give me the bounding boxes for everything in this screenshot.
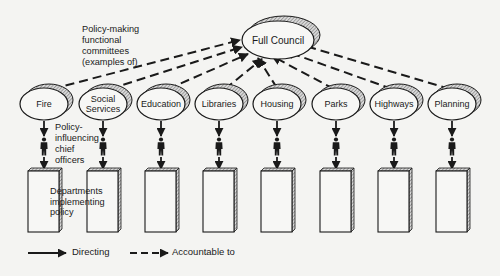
committee-node: Highways — [370, 84, 423, 120]
department-column — [320, 121, 354, 232]
committee-label: Housing — [260, 99, 293, 109]
department-column — [203, 121, 237, 232]
annotation-line: Policy-making — [82, 24, 139, 35]
committee-node: Libraries — [195, 84, 248, 120]
legend-directing-label: Directing — [72, 246, 110, 257]
legend-accountable-label: Accountable to — [172, 246, 235, 257]
department-box — [436, 168, 470, 232]
chief-officer-icon — [273, 137, 280, 155]
full-council-node: Full Council — [242, 16, 320, 59]
committee-label: Highways — [374, 99, 414, 109]
chief-officer-icon — [390, 137, 397, 155]
committee-label: Fire — [36, 99, 52, 109]
annotation-line: Departments — [50, 186, 105, 197]
department-box — [261, 168, 295, 232]
committee-label: Social — [91, 94, 116, 104]
committee-node: Parks — [312, 84, 365, 120]
committee-label: Parks — [324, 99, 348, 109]
chief-officer-icon — [448, 137, 455, 155]
committee-label: Planning — [434, 99, 469, 109]
department-column — [436, 121, 470, 232]
annotation-line: functional — [82, 35, 139, 46]
committee-label: Libraries — [202, 99, 237, 109]
department-box — [145, 168, 179, 232]
full-council-label: Full Council — [252, 35, 304, 46]
committee-node: Education — [137, 84, 190, 120]
chief-officer-icon — [332, 137, 339, 155]
chief-officer-icon — [157, 137, 164, 155]
department-column — [378, 121, 412, 232]
committee-label: Services — [86, 104, 121, 114]
departments-annotation: Departments implementing policy — [50, 186, 105, 218]
annotation-line: (examples of) — [82, 57, 139, 68]
committee-node: Fire — [20, 84, 73, 120]
department-box — [320, 168, 354, 232]
chief-officer-icon — [215, 137, 222, 155]
chief-officer-icon — [40, 137, 47, 155]
committee-label: Education — [141, 99, 181, 109]
committee-node: SocialServices — [79, 84, 132, 120]
annotation-line: committees — [82, 46, 139, 57]
chief-officer-icon — [99, 137, 106, 155]
committee-node: Planning — [428, 84, 481, 120]
department-column — [261, 121, 295, 232]
department-box — [378, 168, 412, 232]
committee-node: Housing — [253, 84, 306, 120]
department-column — [145, 121, 179, 232]
annotation-line: influencing — [55, 133, 99, 144]
department-box — [203, 168, 237, 232]
annotation-line: officers — [55, 155, 99, 166]
officers-annotation: Policy- influencing chief officers — [55, 122, 99, 166]
annotation-line: Policy- — [55, 122, 99, 133]
annotation-line: chief — [55, 144, 99, 155]
annotation-line: implementing — [50, 197, 105, 208]
committees-annotation: Policy-making functional committees (exa… — [82, 24, 139, 68]
annotation-line: policy — [50, 207, 105, 218]
